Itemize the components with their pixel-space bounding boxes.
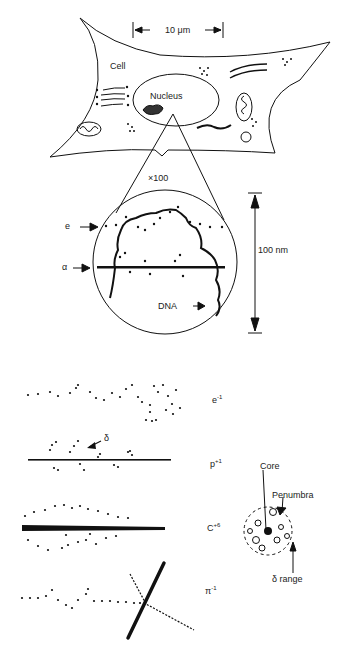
nucleus-label: Nucleus xyxy=(150,92,183,101)
track-label-electron: e-1 xyxy=(212,394,222,405)
track-label-proton: p+1 xyxy=(210,458,222,469)
track-label-pion: π-1 xyxy=(205,585,217,596)
track-electron xyxy=(27,384,181,422)
track-proton xyxy=(28,440,171,471)
dna-strand xyxy=(110,209,220,316)
core-pointer xyxy=(263,470,266,530)
cell-label: Cell xyxy=(110,62,126,71)
track-label-carbon: C+6 xyxy=(207,522,220,533)
cell-scale-bar-label: 10 μm xyxy=(165,26,190,35)
alpha-track-label: α xyxy=(62,263,67,272)
track-carbon xyxy=(22,504,165,551)
magnification-label: ×100 xyxy=(148,174,168,183)
nm-scale-bar-label: 100 nm xyxy=(258,246,288,255)
delta-range-label: δ range xyxy=(272,575,303,584)
electron-track-label: e xyxy=(65,222,70,231)
core-label: Core xyxy=(260,462,280,471)
delta-ray-label: δ xyxy=(104,434,109,443)
penumbra-label: Penumbra xyxy=(272,491,314,500)
track-pion xyxy=(21,563,194,638)
dna-label: DNA xyxy=(158,302,177,311)
